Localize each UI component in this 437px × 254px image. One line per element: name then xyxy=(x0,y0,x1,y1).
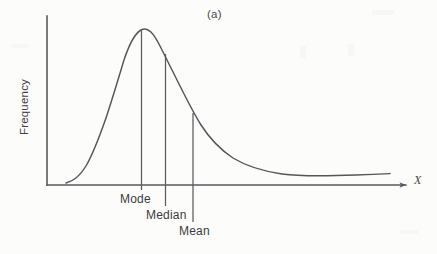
y-axis-title: Frequency xyxy=(18,67,30,147)
panel-caption: (a) xyxy=(207,8,222,20)
median-label: Median xyxy=(146,208,187,222)
distribution-curve xyxy=(66,29,390,183)
figure-container: (a) Frequency X Mode Median Mean xyxy=(0,0,437,254)
skewed-distribution-chart xyxy=(0,0,437,254)
mean-label: Mean xyxy=(179,224,210,238)
x-axis-title: X xyxy=(414,173,422,188)
mode-label: Mode xyxy=(120,192,151,206)
